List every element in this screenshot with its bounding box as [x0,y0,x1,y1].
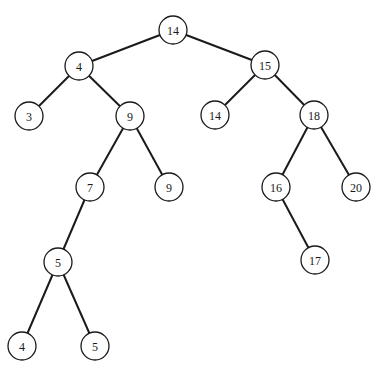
tree-node: 4 [8,332,36,360]
node-label: 14 [209,109,221,123]
node-label: 7 [87,181,93,195]
node-label: 9 [166,181,172,195]
tree-node: 17 [301,246,329,274]
node-label: 5 [55,256,61,270]
tree-node: 15 [251,51,279,79]
tree-node: 5 [44,248,72,276]
tree-edge [79,30,173,66]
node-label: 4 [19,340,25,354]
node-label: 20 [350,181,362,195]
node-label: 15 [259,59,271,73]
tree-node: 3 [15,102,43,130]
node-label: 9 [127,110,133,124]
node-label: 5 [92,340,98,354]
node-label: 17 [309,254,321,268]
node-label: 18 [308,109,320,123]
tree-node: 16 [262,173,290,201]
tree-node: 9 [155,173,183,201]
tree-node: 5 [81,332,109,360]
tree-node: 7 [76,173,104,201]
tree-node: 4 [65,52,93,80]
tree-edge [173,30,265,65]
tree-node: 20 [342,173,370,201]
tree-node: 14 [201,101,229,129]
node-label: 16 [270,181,282,195]
tree-nodes: 1441539141879162051745 [8,16,370,360]
binary-tree-diagram: 1441539141879162051745 [0,0,381,376]
node-label: 14 [167,24,179,38]
tree-node: 18 [300,101,328,129]
tree-node: 9 [116,102,144,130]
node-label: 3 [26,110,32,124]
node-label: 4 [76,60,82,74]
tree-node: 14 [159,16,187,44]
